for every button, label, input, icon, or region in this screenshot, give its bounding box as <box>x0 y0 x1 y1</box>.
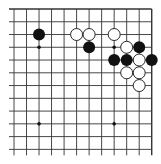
star-point <box>37 45 41 49</box>
white-stone <box>71 29 83 41</box>
white-stone <box>133 67 145 79</box>
white-stone <box>121 41 133 53</box>
black-stone <box>121 54 133 66</box>
white-stone <box>133 54 145 66</box>
black-stone <box>33 29 45 41</box>
star-point <box>112 122 116 126</box>
star-point <box>112 45 116 49</box>
go-board <box>0 0 161 164</box>
black-stone <box>133 41 145 53</box>
star-point <box>37 122 41 126</box>
black-stone <box>146 54 158 66</box>
white-stone <box>83 29 95 41</box>
black-stone <box>83 41 95 53</box>
black-stone <box>108 54 120 66</box>
white-stone <box>133 80 145 92</box>
white-stone <box>121 67 133 79</box>
white-stone <box>108 29 120 41</box>
